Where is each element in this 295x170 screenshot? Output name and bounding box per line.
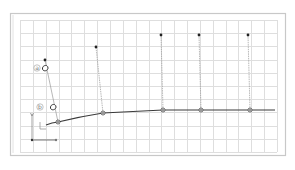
background: [0, 0, 295, 170]
curve-node-center: [249, 109, 251, 111]
curve-node-center: [57, 121, 59, 123]
diagram-canvas[interactable]: ab: [0, 0, 295, 170]
origin-point: [31, 139, 33, 141]
handle-point[interactable]: [247, 34, 250, 37]
curve-node-center: [102, 112, 104, 114]
grab-cursor-b-icon: [50, 104, 56, 109]
handle-point[interactable]: [95, 46, 98, 49]
grab-cursor-a-icon: [42, 65, 48, 70]
handle-point[interactable]: [198, 34, 201, 37]
x-axis-point: [55, 139, 57, 141]
label-text-a: a: [35, 64, 39, 71]
label-text-b: b: [38, 103, 42, 110]
curve-node-center: [200, 109, 202, 111]
curve-node-center: [162, 109, 164, 111]
handle-point[interactable]: [44, 59, 47, 62]
handle-point[interactable]: [160, 34, 163, 37]
